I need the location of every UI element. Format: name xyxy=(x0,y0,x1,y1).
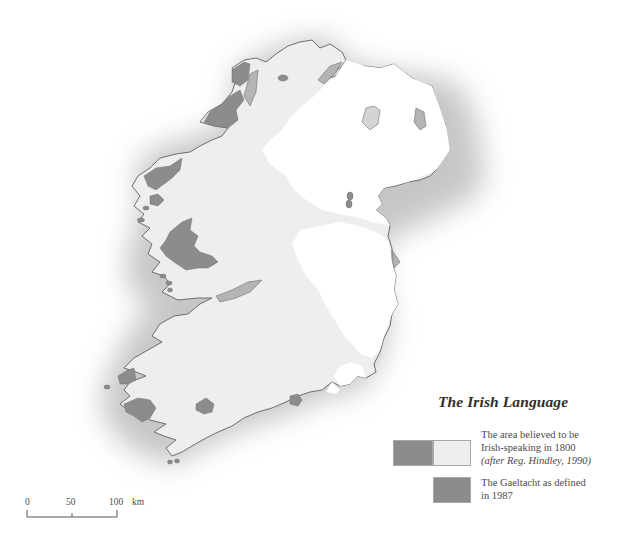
legend-line: Irish-speaking in 1800 xyxy=(481,441,591,454)
legend-line: The area believed to be xyxy=(481,428,591,441)
legend-swatch-pair xyxy=(393,440,471,466)
legend-text-1800: The area believed to be Irish-speaking i… xyxy=(481,428,591,467)
legend-item-irish-speaking-1800: The area believed to be Irish-speaking i… xyxy=(393,440,591,467)
scale-line xyxy=(25,509,120,519)
scale-bar: 0 50 100 km xyxy=(25,497,120,517)
legend-item-gaeltacht-1987: The Gaeltacht as defined in 1987 xyxy=(433,477,586,503)
scale-tick-100: 100 xyxy=(109,497,123,507)
legend-source: (after Reg. Hindley, 1990) xyxy=(481,455,591,466)
scale-tick-0: 0 xyxy=(25,497,30,507)
scale-unit: km xyxy=(132,497,144,507)
legend-text-1987: The Gaeltacht as defined in 1987 xyxy=(481,476,586,502)
legend-title: The Irish Language xyxy=(438,393,568,411)
swatch-gaeltacht-1987 xyxy=(433,477,471,503)
swatch-gaeltacht-color xyxy=(393,440,433,466)
legend-line: The Gaeltacht as defined xyxy=(481,476,586,489)
legend-line: in 1987 xyxy=(481,489,586,502)
scale-tick-50: 50 xyxy=(66,497,76,507)
swatch-1800-color xyxy=(433,440,471,466)
